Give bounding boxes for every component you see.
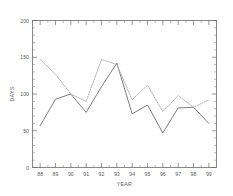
x-tick-label: 98 — [191, 171, 197, 177]
x-axis-ticks — [40, 21, 209, 168]
x-tick-label: 94 — [129, 171, 135, 177]
y-axis-tick-labels: 050100150200 — [20, 18, 29, 171]
y-tick-label: 150 — [20, 54, 29, 60]
y-tick-label: 200 — [20, 18, 29, 24]
x-tick-label: 91 — [83, 171, 89, 177]
series-layer — [40, 59, 209, 133]
y-tick-label: 50 — [23, 128, 29, 134]
x-tick-label: 92 — [99, 171, 105, 177]
x-axis-tick-labels: 888990919293949596979899 — [37, 171, 212, 177]
x-tick-label: 95 — [145, 171, 151, 177]
plot-frame — [33, 21, 217, 168]
y-axis-title: DAYS — [9, 86, 15, 101]
x-axis-title: YEAR — [117, 181, 132, 187]
series-line-solid — [40, 63, 209, 133]
line-chart: 050100150200 888990919293949596979899 YE… — [0, 0, 233, 196]
axes-rectangle — [33, 21, 217, 168]
y-axis-ticks — [33, 21, 217, 168]
x-tick-label: 88 — [37, 171, 43, 177]
chart-container: 050100150200 888990919293949596979899 YE… — [0, 0, 233, 196]
x-tick-label: 97 — [175, 171, 181, 177]
y-tick-label: 0 — [26, 165, 29, 171]
x-tick-label: 90 — [68, 171, 74, 177]
x-tick-label: 96 — [160, 171, 166, 177]
x-tick-label: 99 — [206, 171, 212, 177]
x-tick-label: 89 — [53, 171, 59, 177]
x-tick-label: 93 — [114, 171, 120, 177]
series-line-dotted — [40, 59, 209, 111]
y-tick-label: 100 — [20, 91, 29, 97]
